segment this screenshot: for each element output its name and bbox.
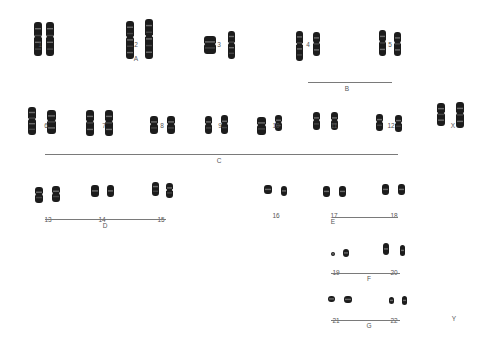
group-line-C [45,154,398,155]
chromosome-14-2 [107,185,114,197]
chromosome-label-6: 6 [44,123,48,130]
chromosome-5-1 [379,30,387,56]
group-line-B [308,82,392,83]
chromosome-label-15: 15 [157,217,164,224]
chromosome-18-1 [382,184,389,195]
group-label-A: A [134,56,138,63]
chromosome-14-1 [91,185,99,197]
chromosome-label-5: 5 [388,42,392,49]
group-line-E [333,217,398,218]
chromosome-7-1 [86,110,95,136]
group-line-D [45,219,166,220]
chromosome-X-1 [437,103,446,126]
chromosome-19-2 [343,249,349,257]
group-label-B: B [345,86,349,93]
group-line-G [331,320,400,321]
chromosome-3-1 [204,36,217,54]
chromosome-15-1 [152,182,159,196]
chromosome-label-8: 8 [160,123,164,130]
chromosome-label-Y: Y [452,316,456,323]
chromosome-X-2 [456,102,465,128]
chromosome-label-12: 12 [387,123,394,130]
chromosome-label-2: 2 [134,42,138,49]
chromosome-20-2 [400,245,405,256]
chromosome-13-1 [35,187,44,203]
chromosome-1-1 [34,22,43,56]
chromosome-17-2 [339,186,346,197]
chromosome-15-2 [166,183,174,198]
chromosome-label-4: 4 [306,42,310,49]
chromosome-8-1 [150,116,159,134]
karyotype-image: 123456789101112X13141516171819202122YABC… [0,0,493,345]
chromosome-16-2 [281,186,287,196]
group-label-D: D [103,223,108,230]
chromosome-21-1 [328,296,335,302]
chromosome-21-2 [344,296,352,303]
chromosome-19-1 [331,252,335,256]
chromosome-layer [0,0,493,345]
chromosome-17-1 [323,186,330,197]
group-label-G: G [366,323,371,330]
chromosome-10-1 [257,117,267,135]
chromosome-8-2 [167,116,176,134]
chromosome-3-2 [228,31,236,59]
chromosome-9-1 [205,116,213,134]
chromosome-4-1 [296,31,304,61]
chromosome-11-1 [313,112,321,130]
chromosome-label-10: 10 [272,123,279,130]
group-label-C: C [217,158,222,165]
chromosome-label-16: 16 [272,213,279,220]
chromosome-label-7: 7 [102,123,106,130]
chromosome-2-2 [145,19,154,59]
chromosome-22-2 [402,296,407,305]
chromosome-1-2 [46,22,55,56]
chromosome-16-1 [264,185,272,194]
chromosome-label-11: 11 [331,123,338,130]
chromosome-22-1 [389,297,394,304]
chromosome-label-13: 13 [44,217,51,224]
group-label-F: F [367,276,371,283]
group-line-F [331,273,400,274]
chromosome-6-1 [28,107,37,135]
chromosome-label-1: 1 [38,42,42,49]
chromosome-13-2 [52,186,61,202]
chromosome-label-9: 9 [218,123,222,130]
chromosome-12-2 [395,115,403,132]
chromosome-4-2 [313,32,321,56]
chromosome-20-1 [383,243,389,255]
chromosome-2-1 [126,21,135,59]
chromosome-5-2 [394,32,402,56]
chromosome-12-1 [376,114,384,131]
chromosome-label-3: 3 [217,42,221,49]
group-label-E: E [331,219,335,226]
chromosome-label-X: X [451,123,455,130]
chromosome-18-2 [398,184,405,195]
chromosome-label-22: 22 [390,318,397,325]
chromosome-label-21: 21 [332,318,339,325]
